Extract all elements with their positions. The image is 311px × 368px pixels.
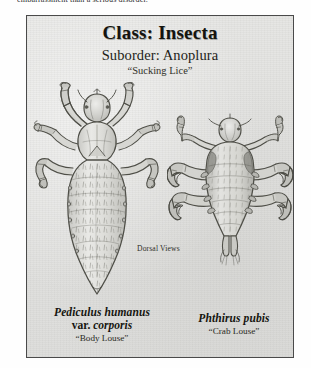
- crab-louse-common-name: “Crab Louse”: [175, 326, 293, 336]
- body-louse-illustration: [31, 80, 163, 304]
- preceding-body-text: embarrassment than a serious disorder.: [17, 0, 297, 4]
- body-louse-caption: Pediculus humanus var. corporis “Body Lo…: [29, 306, 175, 343]
- body-louse-common-name: “Body Louse”: [29, 333, 175, 343]
- plate-heading-common-name: “Sucking Lice”: [27, 65, 293, 76]
- plate-heading-class: Class: Insecta: [27, 22, 293, 44]
- body-louse-variety: var. corporis: [29, 319, 175, 332]
- figure-page: embarrassment than a serious disorder. C…: [0, 0, 311, 368]
- crab-louse-caption: Phthirus pubis “Crab Louse”: [175, 312, 293, 336]
- body-louse-scientific-name: Pediculus humanus: [29, 306, 175, 319]
- crab-louse-scientific-name: Phthirus pubis: [175, 312, 293, 325]
- variety-prefix: var.: [72, 319, 90, 331]
- plate-inner: Class: Insecta Suborder: Anoplura “Sucki…: [27, 16, 293, 357]
- variety-epithet: corporis: [93, 319, 132, 331]
- dorsal-views-label: Dorsal Views: [137, 244, 227, 253]
- plate-heading-suborder: Suborder: Anoplura: [27, 47, 293, 64]
- illustration-plate: Class: Insecta Suborder: Anoplura “Sucki…: [26, 15, 294, 358]
